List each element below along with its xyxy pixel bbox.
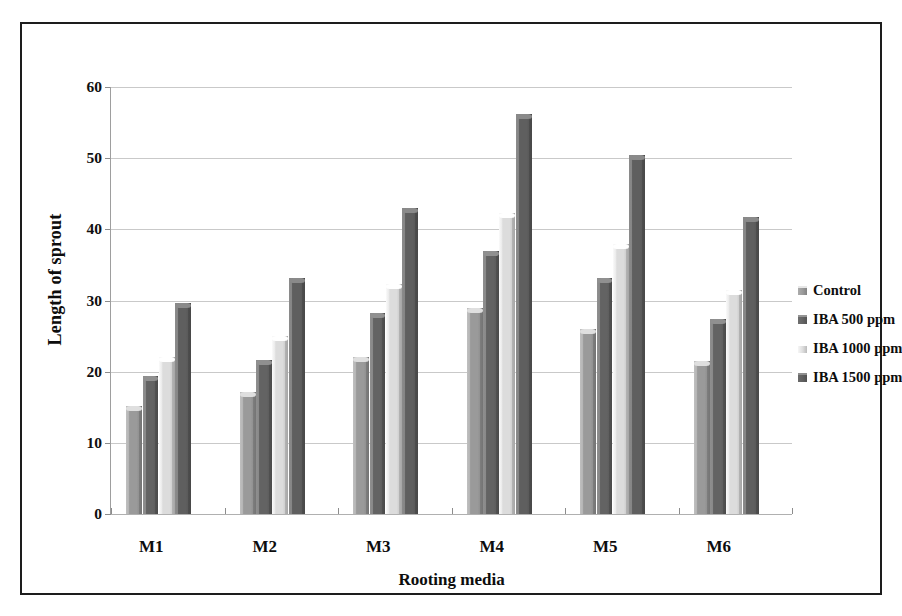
bar <box>710 319 726 514</box>
x-axis-tick-labels: M1M2M3M4M5M6 <box>111 537 792 565</box>
bar <box>516 114 532 514</box>
bar-left-highlight <box>483 251 486 514</box>
bar <box>629 155 645 514</box>
legend-item[interactable]: IBA 1000 ppm <box>798 340 902 357</box>
bar-right-shadow <box>642 155 645 514</box>
bar-left-highlight <box>353 357 356 514</box>
bar-top-cap <box>256 360 272 365</box>
bar <box>159 357 175 514</box>
bar <box>240 392 256 514</box>
bar <box>126 406 142 514</box>
legend-item-label: IBA 500 ppm <box>813 311 895 328</box>
x-axis-category-separator <box>679 508 680 514</box>
y-axis-title: Length of sprout <box>45 80 66 480</box>
bar-top-cap <box>613 244 629 249</box>
legend-item[interactable]: Control <box>798 282 902 299</box>
bar-left-highlight <box>743 217 746 514</box>
x-axis-category-separator <box>452 508 453 514</box>
bar <box>402 208 418 514</box>
bar-right-shadow <box>756 217 759 514</box>
bar-top-cap <box>143 376 159 381</box>
legend-color-swatch <box>798 344 807 353</box>
x-axis-tick-label: M5 <box>593 537 618 557</box>
bar-group <box>565 87 679 514</box>
bar-group <box>225 87 339 514</box>
x-axis-category-separator <box>792 508 793 514</box>
chart-legend: ControlIBA 500 ppmIBA 1000 ppmIBA 1500 p… <box>798 282 902 386</box>
bar-left-highlight <box>402 208 405 514</box>
bar-right-shadow <box>302 278 305 514</box>
legend-swatch-cap <box>798 286 807 288</box>
bar-left-highlight <box>516 114 519 514</box>
bar <box>694 361 710 514</box>
bar-top-cap <box>159 357 175 362</box>
bar <box>580 329 596 514</box>
x-axis-category-separator <box>111 508 112 514</box>
bar-left-highlight <box>289 278 292 514</box>
bar-top-cap <box>240 392 256 397</box>
x-axis-tick-label: M4 <box>480 537 505 557</box>
bar <box>597 278 613 514</box>
y-axis-tick-label: 10 <box>87 434 103 452</box>
bar <box>743 217 759 514</box>
x-axis-tick-label: M2 <box>253 537 278 557</box>
bar-top-cap <box>726 290 742 295</box>
bar-top-cap <box>499 213 515 218</box>
legend-swatch-cap <box>798 315 807 317</box>
bar-top-cap <box>272 336 288 341</box>
bar-left-highlight <box>159 357 162 514</box>
legend-item-label: Control <box>813 282 861 299</box>
bar <box>143 376 159 514</box>
bar <box>499 213 515 514</box>
bar-left-highlight <box>726 290 729 514</box>
bar <box>370 313 386 514</box>
bar-left-highlight <box>256 360 259 514</box>
bar <box>353 357 369 514</box>
bars-layer <box>111 87 792 514</box>
x-axis-category-separator <box>565 508 566 514</box>
bar-left-highlight <box>597 278 600 514</box>
bar-top-cap <box>370 313 386 318</box>
gridline <box>111 514 792 515</box>
x-axis-category-separator <box>338 508 339 514</box>
bar-left-highlight <box>272 336 275 514</box>
bar <box>175 303 191 514</box>
bar-left-highlight <box>143 376 146 514</box>
bar-top-cap <box>386 284 402 289</box>
legend-swatch-cap <box>798 373 807 375</box>
bar-left-highlight <box>629 155 632 514</box>
y-axis-tick-label: 20 <box>87 363 103 381</box>
bar-left-highlight <box>126 406 129 514</box>
bar-top-cap <box>597 278 613 283</box>
bar-top-cap <box>289 278 305 283</box>
bar <box>613 244 629 514</box>
bar-group <box>679 87 793 514</box>
x-axis-tick-label: M6 <box>707 537 732 557</box>
bar-top-cap <box>126 406 142 411</box>
bar-right-shadow <box>188 303 191 514</box>
y-axis-tick-label: 30 <box>87 292 103 310</box>
legend-color-swatch <box>798 373 807 382</box>
legend-item-label: IBA 1000 ppm <box>813 340 902 357</box>
bar-left-highlight <box>499 213 502 514</box>
legend-item-label: IBA 1500 ppm <box>813 369 902 386</box>
y-axis-tick-mark <box>105 514 111 515</box>
bar-group <box>452 87 566 514</box>
bar <box>726 290 742 514</box>
bar <box>256 360 272 514</box>
legend-item[interactable]: IBA 1500 ppm <box>798 369 902 386</box>
bar <box>289 278 305 514</box>
bar-top-cap <box>353 357 369 362</box>
y-axis-tick-label: 60 <box>87 78 103 96</box>
bar-left-highlight <box>175 303 178 514</box>
y-axis-tick-label: 0 <box>94 505 102 523</box>
bar-group <box>338 87 452 514</box>
bar-left-highlight <box>694 361 697 514</box>
bar-top-cap <box>402 208 418 213</box>
bar-left-highlight <box>370 313 373 514</box>
legend-item[interactable]: IBA 500 ppm <box>798 311 902 328</box>
bar-top-cap <box>743 217 759 222</box>
bar-left-highlight <box>386 284 389 514</box>
bar-right-shadow <box>529 114 532 514</box>
x-axis-tick-label: M3 <box>366 537 391 557</box>
